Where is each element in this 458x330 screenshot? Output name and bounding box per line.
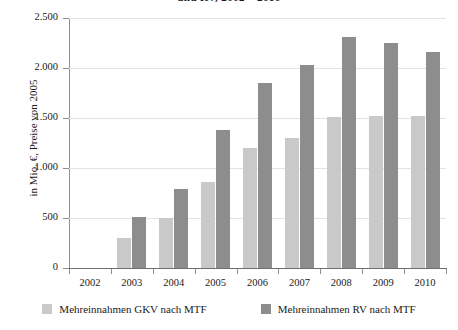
- x-axis-tick: [111, 269, 112, 274]
- gridline: [69, 18, 446, 19]
- bar-rv-2009: [384, 43, 398, 268]
- legend-label: Mehreinnahmen GKV nach MTF: [59, 303, 206, 315]
- x-axis-tick: [320, 269, 321, 274]
- x-axis-tick-label-2005: 2005: [193, 277, 239, 288]
- x-axis-tick: [404, 269, 405, 274]
- y-axis-tick-label: 1.000: [0, 162, 58, 172]
- x-axis-tick-label-2010: 2010: [402, 277, 448, 288]
- plot-area: [69, 18, 446, 268]
- x-axis-line: [69, 268, 447, 269]
- y-axis-tick-label: 2.500: [0, 12, 58, 22]
- x-axis-tick-label-2006: 2006: [235, 277, 281, 288]
- bar-gkv-2010: [411, 116, 425, 268]
- bar-rv-2003: [132, 217, 146, 268]
- y-axis-tick-label: 2.000: [0, 62, 58, 72]
- bar-rv-2007: [300, 65, 314, 268]
- x-axis-tick: [195, 269, 196, 274]
- y-axis-tick-label: 0: [0, 262, 58, 272]
- x-axis-tick-label-2007: 2007: [276, 277, 322, 288]
- bar-gkv-2005: [201, 182, 215, 268]
- bar-rv-2010: [426, 52, 440, 268]
- x-axis-tick: [362, 269, 363, 274]
- x-axis-tick: [69, 269, 70, 274]
- y-axis-tick-label: 1.500: [0, 112, 58, 122]
- chart-legend: Mehreinnahmen GKV nach MTFMehreinnahmen …: [0, 303, 458, 315]
- bar-rv-2006: [258, 83, 272, 268]
- x-axis-tick: [446, 269, 447, 274]
- bar-rv-2005: [216, 130, 230, 268]
- bar-rv-2008: [342, 37, 356, 268]
- legend-label: Mehreinnahmen RV nach MTF: [278, 303, 416, 315]
- x-axis-tick-label-2003: 2003: [109, 277, 155, 288]
- bar-gkv-2003: [117, 238, 131, 268]
- x-axis-tick-label-2004: 2004: [151, 277, 197, 288]
- y-axis-tick-label: 500: [0, 212, 58, 222]
- x-axis-tick: [153, 269, 154, 274]
- bar-gkv-2007: [285, 138, 299, 268]
- bar-rv-2004: [174, 189, 188, 268]
- legend-item: Mehreinnahmen GKV nach MTF: [42, 303, 206, 315]
- chart-figure: und RV, 2002 – 2010 in Mio. €, Preise vo…: [0, 0, 458, 330]
- x-axis-tick-label-2008: 2008: [318, 277, 364, 288]
- bar-gkv-2008: [327, 117, 341, 268]
- x-axis-tick-label-2009: 2009: [360, 277, 406, 288]
- bar-gkv-2004: [159, 218, 173, 268]
- chart-title: und RV, 2002 – 2010: [0, 0, 458, 3]
- x-axis-tick: [278, 269, 279, 274]
- x-axis-tick-label-2002: 2002: [67, 277, 113, 288]
- legend-item: Mehreinnahmen RV nach MTF: [261, 303, 416, 315]
- legend-swatch-icon: [42, 304, 52, 314]
- bar-gkv-2009: [369, 116, 383, 268]
- bar-gkv-2006: [243, 148, 257, 268]
- x-axis-tick: [237, 269, 238, 274]
- legend-swatch-icon: [261, 304, 271, 314]
